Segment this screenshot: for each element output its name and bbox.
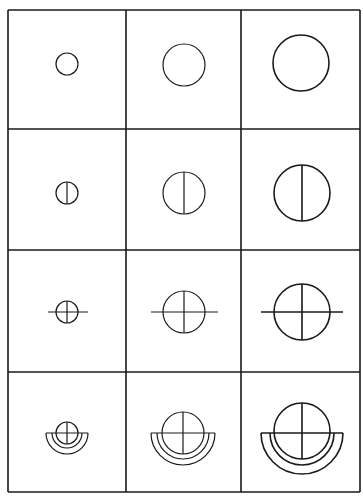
grid-lines [8,10,360,492]
cell-figure [48,301,88,323]
circle-shape [56,53,78,75]
cell-figure [151,412,215,465]
cell-figure [56,182,78,204]
circle-shape [273,35,329,91]
cell-figure [273,35,329,91]
figure-grid [0,0,363,496]
circle-shape [163,44,205,86]
cells [46,35,343,474]
cell-figure [261,284,343,340]
cell-figure [274,165,330,221]
cell-figure [261,403,343,474]
cell-figure [163,172,205,214]
cell-figure [56,53,78,75]
cell-figure [151,291,218,333]
cell-figure [46,422,88,454]
cell-figure [163,44,205,86]
